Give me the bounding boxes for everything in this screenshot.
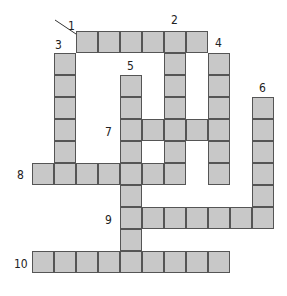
- crossword-cell[interactable]: [54, 97, 76, 119]
- crossword-cell[interactable]: [230, 207, 252, 229]
- clue-number-8: 8: [17, 169, 24, 181]
- crossword-cell[interactable]: [142, 251, 164, 273]
- crossword-cell[interactable]: [32, 163, 54, 185]
- crossword-grid: 12345678910: [0, 0, 287, 296]
- crossword-cell[interactable]: [164, 75, 186, 97]
- crossword-cell[interactable]: [208, 119, 230, 141]
- crossword-cell[interactable]: [186, 251, 208, 273]
- crossword-cell[interactable]: [208, 97, 230, 119]
- crossword-cell[interactable]: [208, 163, 230, 185]
- crossword-cell[interactable]: [120, 229, 142, 251]
- clue-number-2: 2: [171, 14, 178, 26]
- crossword-cell[interactable]: [120, 207, 142, 229]
- clue-number-7: 7: [105, 126, 112, 138]
- crossword-cell[interactable]: [252, 141, 274, 163]
- crossword-cell[interactable]: [252, 119, 274, 141]
- crossword-cell[interactable]: [186, 119, 208, 141]
- crossword-cell[interactable]: [164, 97, 186, 119]
- crossword-cell[interactable]: [76, 31, 98, 53]
- crossword-cell[interactable]: [164, 31, 186, 53]
- clue-number-10: 10: [14, 258, 28, 270]
- crossword-cell[interactable]: [142, 207, 164, 229]
- crossword-cell[interactable]: [54, 251, 76, 273]
- crossword-cell[interactable]: [252, 163, 274, 185]
- crossword-cell[interactable]: [76, 251, 98, 273]
- crossword-cell[interactable]: [208, 75, 230, 97]
- crossword-cell[interactable]: [142, 163, 164, 185]
- crossword-cell[interactable]: [164, 141, 186, 163]
- crossword-cell[interactable]: [54, 141, 76, 163]
- crossword-cell[interactable]: [142, 119, 164, 141]
- crossword-cell[interactable]: [54, 119, 76, 141]
- crossword-cell[interactable]: [252, 185, 274, 207]
- crossword-cell[interactable]: [208, 251, 230, 273]
- crossword-cell[interactable]: [98, 251, 120, 273]
- crossword-cell[interactable]: [98, 163, 120, 185]
- crossword-cell[interactable]: [252, 207, 274, 229]
- crossword-cell[interactable]: [120, 97, 142, 119]
- crossword-cell[interactable]: [32, 251, 54, 273]
- crossword-cell[interactable]: [54, 163, 76, 185]
- clue-number-3: 3: [55, 39, 62, 51]
- clue-number-5: 5: [127, 60, 134, 72]
- crossword-cell[interactable]: [208, 141, 230, 163]
- clue-number-9: 9: [105, 214, 112, 226]
- crossword-cell[interactable]: [186, 31, 208, 53]
- crossword-cell[interactable]: [164, 251, 186, 273]
- crossword-cell[interactable]: [120, 163, 142, 185]
- crossword-cell[interactable]: [164, 163, 186, 185]
- crossword-cell[interactable]: [120, 75, 142, 97]
- crossword-cell[interactable]: [142, 31, 164, 53]
- clue-number-4: 4: [215, 37, 222, 49]
- crossword-cell[interactable]: [252, 97, 274, 119]
- crossword-cell[interactable]: [54, 75, 76, 97]
- crossword-cell[interactable]: [98, 31, 120, 53]
- crossword-cell[interactable]: [186, 207, 208, 229]
- crossword-cell[interactable]: [120, 141, 142, 163]
- crossword-cell[interactable]: [120, 119, 142, 141]
- clue-number-1: 1: [68, 20, 75, 32]
- crossword-cell[interactable]: [120, 31, 142, 53]
- crossword-cell[interactable]: [164, 207, 186, 229]
- crossword-cell[interactable]: [164, 53, 186, 75]
- crossword-cell[interactable]: [76, 163, 98, 185]
- crossword-cell[interactable]: [164, 119, 186, 141]
- crossword-cell[interactable]: [120, 251, 142, 273]
- crossword-cell[interactable]: [208, 53, 230, 75]
- crossword-cell[interactable]: [120, 185, 142, 207]
- crossword-cell[interactable]: [54, 53, 76, 75]
- clue-number-6: 6: [259, 82, 266, 94]
- crossword-cell[interactable]: [208, 207, 230, 229]
